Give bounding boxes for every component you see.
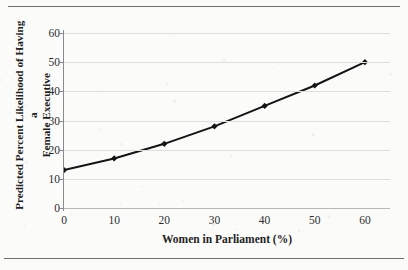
y-tick-mark bbox=[60, 150, 64, 151]
scan-speck bbox=[70, 213, 72, 215]
figure-container: 0102030405060 0102030405060 Women in Par… bbox=[0, 0, 408, 270]
gridline-y bbox=[64, 33, 390, 34]
x-tick-label: 60 bbox=[345, 214, 385, 226]
scan-speck bbox=[0, 79, 2, 81]
y-tick-mark bbox=[60, 62, 64, 63]
x-tick-label: 20 bbox=[144, 214, 184, 226]
scan-speck bbox=[212, 223, 215, 226]
x-axis-line bbox=[64, 208, 390, 209]
data-point-marker bbox=[161, 141, 167, 147]
bottom-divider-rule bbox=[4, 258, 404, 259]
scan-speck bbox=[357, 27, 358, 28]
x-tick-label: 0 bbox=[44, 214, 84, 226]
gridline-y bbox=[64, 91, 390, 92]
scan-speck bbox=[168, 37, 169, 38]
data-point-marker bbox=[211, 123, 217, 129]
y-tick-mark bbox=[60, 121, 64, 122]
data-line bbox=[64, 62, 365, 170]
data-point-marker bbox=[111, 155, 117, 161]
scan-speck bbox=[25, 161, 28, 164]
scan-speck bbox=[173, 100, 176, 103]
scan-speck bbox=[327, 215, 330, 218]
scan-speck bbox=[223, 59, 226, 62]
scan-speck bbox=[120, 204, 122, 206]
y-axis-title-line-2: Female Executive bbox=[40, 20, 54, 210]
data-point-marker bbox=[64, 167, 67, 173]
gridline-y bbox=[64, 62, 390, 63]
scan-speck bbox=[117, 217, 119, 219]
top-divider-rule bbox=[8, 6, 400, 7]
scan-speck bbox=[230, 155, 232, 157]
scan-speck bbox=[399, 61, 400, 62]
x-tick-label: 10 bbox=[94, 214, 134, 226]
gridline-y bbox=[64, 121, 390, 122]
scan-speck bbox=[234, 228, 236, 230]
scan-speck bbox=[390, 73, 393, 76]
y-tick-mark bbox=[60, 179, 64, 180]
y-axis-title: Predicted Percent Likelihood of Having a… bbox=[13, 20, 54, 210]
plot-area bbox=[64, 33, 390, 208]
gridline-y bbox=[64, 179, 390, 180]
scan-speck bbox=[182, 200, 184, 202]
data-point-marker bbox=[312, 82, 318, 88]
scan-speck bbox=[229, 68, 231, 70]
y-tick-mark bbox=[60, 33, 64, 34]
y-tick-mark bbox=[60, 208, 64, 209]
x-tick-label: 40 bbox=[245, 214, 285, 226]
data-point-marker bbox=[262, 103, 268, 109]
y-axis-title-line-1: Predicted Percent Likelihood of Having a bbox=[13, 20, 40, 210]
gridline-y bbox=[64, 150, 390, 151]
x-axis-title: Women in Parliament (%) bbox=[64, 233, 390, 245]
y-tick-mark bbox=[60, 91, 64, 92]
scan-speck bbox=[298, 230, 300, 232]
scan-speck bbox=[32, 199, 34, 201]
